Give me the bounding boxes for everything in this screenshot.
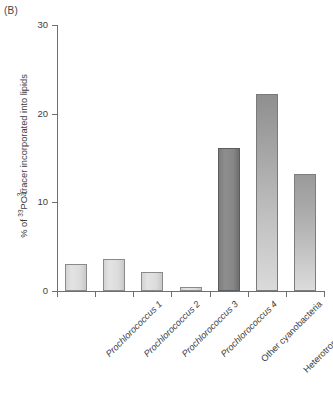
x-tick (171, 291, 172, 297)
y-tick-label: 0 (43, 286, 48, 296)
y-axis-line (57, 25, 58, 292)
bar-5 (218, 148, 240, 291)
y-tick (52, 25, 57, 26)
x-tick (95, 291, 96, 297)
bar-3 (141, 272, 163, 292)
plot-area: 0102030 Prochlorococcus 1Prochlorococcus… (57, 25, 324, 291)
y-tick-label: 20 (37, 109, 48, 119)
y-tick-label: 10 (37, 198, 48, 208)
x-axis-line (57, 291, 324, 292)
y-axis-label-suffix: tracer incorporated into lipids (19, 74, 29, 196)
isotope-superscript: 33 (17, 210, 24, 217)
bar-2 (103, 259, 125, 291)
y-tick (52, 202, 57, 203)
phosphate-formula: PO3–4 (19, 196, 29, 209)
y-axis-label: % of 33PO3–4 tracer incorporated into li… (13, 26, 29, 286)
x-tick (210, 291, 211, 297)
x-tick (324, 291, 325, 297)
bar-6 (256, 94, 278, 291)
x-tick (133, 291, 134, 297)
panel-label: (B) (4, 5, 18, 16)
y-tick (52, 114, 57, 115)
bar-7 (294, 174, 316, 291)
bar-4 (180, 287, 202, 291)
y-tick-label: 30 (37, 20, 48, 30)
phosphate-element: PO (19, 196, 29, 209)
figure-panel-b: (B) % of 33PO3–4 tracer incorporated int… (0, 0, 333, 401)
bar-1 (65, 264, 87, 291)
y-axis-label-prefix: % of (19, 217, 29, 238)
x-tick (248, 291, 249, 297)
x-tick (57, 291, 58, 297)
phosphate-subscript: 4 (21, 193, 28, 197)
x-tick (286, 291, 287, 297)
y-axis-label-text: % of 33PO3–4 tracer incorporated into li… (19, 74, 29, 238)
